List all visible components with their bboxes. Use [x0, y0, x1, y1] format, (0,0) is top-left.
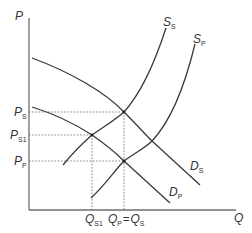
guide-lines: [29, 112, 124, 210]
label-demand-s: DS: [190, 159, 204, 174]
y-axis-label: P: [15, 9, 23, 23]
supply-curve-s: [63, 28, 166, 165]
demand-curve-s: [32, 58, 200, 185]
point-pp-qp: [122, 159, 125, 162]
label-supply-s: SS: [163, 15, 176, 30]
point-ps1-qs1: [91, 134, 94, 137]
label-price-s1: PS1: [10, 128, 27, 143]
x-axis-label: Q: [234, 211, 243, 225]
curves: [32, 28, 200, 203]
supply-demand-diagram: P Q SS SP DS DP PS PS1 PP QS1 QP=QS: [0, 0, 252, 233]
label-price-p: PP: [14, 154, 27, 169]
label-demand-p: DP: [169, 185, 183, 200]
label-price-s: PS: [14, 105, 27, 120]
label-supply-p: SP: [193, 32, 206, 47]
intersection-points: [91, 111, 126, 163]
point-ps-qs: [123, 111, 126, 114]
label-quantity-s1: QS1: [85, 212, 103, 227]
label-quantity-p-equals-s: QP=QS: [108, 212, 145, 227]
supply-curve-p: [91, 44, 195, 198]
